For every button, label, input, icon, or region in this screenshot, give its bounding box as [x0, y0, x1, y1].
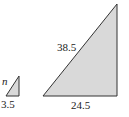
large-hypotenuse-label: 38.5: [57, 42, 76, 53]
large-triangle: [43, 4, 117, 96]
small-base-label: 3.5: [1, 99, 15, 110]
triangles-figure: [0, 0, 129, 117]
small-hypotenuse-label: n: [2, 76, 8, 87]
large-base-label: 24.5: [71, 100, 90, 111]
